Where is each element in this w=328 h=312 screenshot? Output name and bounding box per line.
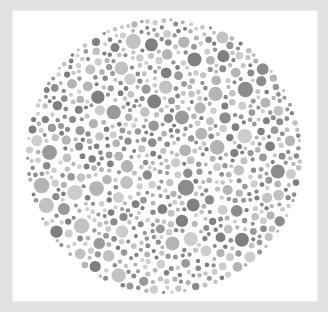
plate-dot bbox=[201, 141, 206, 146]
plate-dot bbox=[219, 125, 227, 133]
plate-dot bbox=[139, 165, 144, 170]
plate-dot bbox=[204, 188, 209, 193]
plate-dot bbox=[250, 228, 257, 235]
plate-dot bbox=[56, 188, 60, 192]
plate-dot bbox=[174, 71, 183, 80]
plate-dot bbox=[139, 277, 148, 286]
plate-dot bbox=[182, 162, 186, 166]
plate-dot bbox=[225, 78, 230, 83]
plate-dot bbox=[196, 162, 201, 167]
plate-dot bbox=[230, 149, 238, 157]
plate-dot bbox=[175, 110, 189, 124]
plate-dot bbox=[56, 118, 60, 122]
plate-dot bbox=[144, 252, 150, 258]
plate-dot bbox=[81, 138, 85, 142]
plate-dot bbox=[140, 197, 147, 204]
plate-dot bbox=[194, 27, 198, 31]
plate-dot bbox=[121, 48, 125, 52]
plate-dot bbox=[270, 70, 273, 73]
plate-dot bbox=[134, 99, 138, 103]
plate-dot bbox=[131, 21, 137, 27]
plate-dot bbox=[260, 98, 270, 108]
plate-dot bbox=[158, 204, 168, 214]
plate-dot bbox=[153, 167, 157, 171]
plate-dot bbox=[223, 185, 233, 195]
plate-dot bbox=[173, 22, 178, 27]
plate-dot bbox=[256, 76, 266, 86]
plate-dot bbox=[286, 169, 296, 179]
plate-dot bbox=[154, 256, 158, 260]
plate-dot bbox=[120, 32, 126, 38]
plate-dot bbox=[127, 130, 132, 135]
plate-dot bbox=[106, 242, 111, 247]
plate-dot bbox=[52, 180, 59, 187]
plate-dot bbox=[176, 29, 181, 34]
plate-dot bbox=[208, 133, 214, 139]
plate-dot bbox=[148, 138, 157, 147]
plate-dot bbox=[210, 156, 216, 162]
plate-dot bbox=[92, 38, 100, 46]
plate-dot bbox=[110, 218, 117, 225]
plate-dot bbox=[42, 145, 57, 160]
plate-dot bbox=[159, 251, 164, 256]
plate-dot bbox=[203, 271, 207, 275]
plate-dot bbox=[212, 31, 216, 35]
plate-dot bbox=[196, 259, 200, 263]
plate-dot bbox=[212, 263, 216, 267]
plate-dot bbox=[197, 273, 201, 277]
plate-dot bbox=[176, 215, 188, 227]
plate-dot bbox=[213, 244, 217, 248]
plate-dot bbox=[215, 186, 220, 191]
plate-dot bbox=[178, 180, 194, 196]
plate-dot bbox=[175, 65, 180, 70]
plate-dot bbox=[46, 171, 50, 175]
plate-dot bbox=[255, 89, 260, 94]
plate-dot bbox=[150, 132, 154, 136]
plate-dot bbox=[208, 171, 212, 175]
plate-dot bbox=[184, 50, 188, 54]
plate-dot bbox=[59, 131, 64, 136]
plate-dot bbox=[273, 153, 277, 157]
plate-dot bbox=[144, 61, 148, 65]
plate-dot bbox=[180, 201, 185, 206]
plate-dot bbox=[218, 205, 228, 215]
plate-dot bbox=[172, 141, 176, 145]
plate-dot bbox=[233, 141, 237, 145]
plate-dot bbox=[166, 179, 173, 186]
plate-dot bbox=[94, 58, 101, 65]
plate-dot bbox=[77, 48, 80, 51]
plate-dot bbox=[298, 139, 301, 142]
plate-dot bbox=[238, 82, 253, 97]
plate-dot bbox=[91, 202, 95, 206]
plate-dot bbox=[52, 193, 59, 200]
plate-dot bbox=[36, 150, 41, 155]
plate-dot bbox=[265, 163, 270, 168]
plate-dot bbox=[154, 112, 159, 117]
plate-dot bbox=[27, 172, 31, 176]
plate-dot bbox=[285, 136, 295, 146]
plate-dot bbox=[135, 85, 139, 89]
plate-dot bbox=[212, 41, 216, 45]
plate-dot bbox=[67, 173, 75, 181]
plate-dot bbox=[104, 220, 108, 224]
plate-dot bbox=[117, 170, 121, 174]
plate-dot bbox=[77, 164, 82, 169]
plate-dot bbox=[111, 236, 117, 242]
plate-dot bbox=[49, 175, 53, 179]
plate-dot bbox=[32, 193, 36, 197]
plate-dot bbox=[251, 222, 255, 226]
plate-dot bbox=[194, 141, 198, 145]
plate-dot bbox=[88, 248, 94, 254]
plate-dot bbox=[118, 81, 123, 86]
plate-dot bbox=[233, 262, 243, 272]
plate-dot bbox=[153, 268, 158, 273]
plate-dot bbox=[63, 154, 72, 163]
plate-dot bbox=[144, 289, 148, 293]
plate-dot bbox=[230, 36, 235, 41]
plate-dot bbox=[144, 131, 148, 135]
plate-dot bbox=[174, 171, 181, 178]
plate-dot bbox=[258, 142, 262, 146]
plate-dot bbox=[242, 218, 248, 224]
plate-dot bbox=[188, 53, 202, 67]
plate-dot bbox=[83, 43, 87, 47]
